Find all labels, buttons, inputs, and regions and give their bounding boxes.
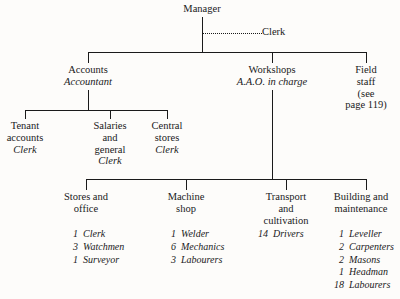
edge-drop-salaries bbox=[110, 110, 111, 119]
node-tenant-accounts: Tenant accounts Clerk bbox=[0, 120, 55, 155]
node-field-staff-title: Field staff (see page 119) bbox=[334, 64, 398, 111]
staff-row: 1 Clerk bbox=[62, 228, 124, 241]
staff-row: 1 Welder bbox=[160, 228, 224, 241]
org-chart: Manager Clerk Accounts Accountant Worksh… bbox=[0, 0, 400, 299]
node-accounts-role: Accountant bbox=[48, 76, 128, 88]
staff-job: Labourers bbox=[181, 254, 222, 267]
staff-count: 1 bbox=[62, 254, 83, 267]
staff-job: Leveller bbox=[349, 228, 382, 241]
edge-drop-machine-shop bbox=[186, 179, 187, 190]
staff-list-machine-shop: 1 Welder 6 Mechanics 3 Labourers bbox=[160, 228, 224, 266]
staff-row: 2 Carpenters bbox=[328, 241, 394, 254]
staff-row: 2 Masons bbox=[328, 254, 394, 267]
staff-job: Welder bbox=[181, 228, 209, 241]
staff-row: 14 Drivers bbox=[252, 228, 304, 241]
node-transport-title: Transport and cultivation bbox=[246, 191, 326, 226]
staff-list-building: 1 Leveller 2 Carpenters 2 Masons 1 Headm… bbox=[328, 228, 394, 292]
node-manager: Manager bbox=[162, 3, 242, 15]
staff-count: 2 bbox=[328, 241, 349, 254]
edge-drop-transport bbox=[286, 179, 287, 190]
edge-manager-clerk-dotted bbox=[203, 33, 262, 34]
node-workshops-role: A.A.O. in charge bbox=[222, 76, 322, 88]
staff-count: 3 bbox=[160, 254, 181, 267]
node-tenant-accounts-title: Tenant accounts bbox=[0, 120, 55, 144]
edge-drop-accounts bbox=[88, 52, 89, 63]
staff-count: 6 bbox=[160, 241, 181, 254]
staff-count: 1 bbox=[328, 228, 349, 241]
node-clerk: Clerk bbox=[262, 26, 308, 38]
node-salaries-role: Clerk bbox=[80, 155, 140, 167]
staff-count: 18 bbox=[328, 279, 349, 292]
node-tenant-accounts-role: Clerk bbox=[0, 144, 55, 156]
staff-job: Surveyor bbox=[83, 254, 119, 267]
node-salaries: Salaries and general Clerk bbox=[80, 120, 140, 167]
staff-job: Drivers bbox=[273, 228, 304, 241]
edge-workshops-stem bbox=[272, 90, 273, 179]
node-stores-office-title: Stores and office bbox=[44, 191, 128, 215]
bus-workshops-children bbox=[86, 179, 366, 180]
staff-row: 18 Labourers bbox=[328, 279, 394, 292]
node-machine-shop-title: Machine shop bbox=[146, 191, 226, 215]
edge-drop-building bbox=[366, 179, 367, 190]
node-accounts: Accounts Accountant bbox=[48, 64, 128, 88]
edge-drop-central-stores bbox=[167, 110, 168, 119]
staff-count: 3 bbox=[62, 241, 83, 254]
staff-row: 3 Watchmen bbox=[62, 241, 124, 254]
staff-row: 6 Mechanics bbox=[160, 241, 224, 254]
edge-drop-tenant-accounts bbox=[25, 110, 26, 119]
staff-job: Clerk bbox=[83, 228, 105, 241]
node-stores-office: Stores and office bbox=[44, 191, 128, 215]
node-field-staff: Field staff (see page 119) bbox=[334, 64, 398, 111]
node-accounts-title: Accounts bbox=[48, 64, 128, 76]
node-clerk-title: Clerk bbox=[262, 26, 308, 38]
staff-job: Headman bbox=[349, 266, 388, 279]
staff-list-stores-office: 1 Clerk 3 Watchmen 1 Surveyor bbox=[62, 228, 124, 266]
node-salaries-title: Salaries and general bbox=[80, 120, 140, 155]
edge-drop-workshops bbox=[272, 52, 273, 63]
staff-count: 2 bbox=[328, 254, 349, 267]
staff-row: 1 Surveyor bbox=[62, 254, 124, 267]
bus-accounts-children bbox=[25, 110, 167, 111]
staff-job: Mechanics bbox=[181, 241, 224, 254]
node-central-stores-title: Central stores bbox=[137, 120, 197, 144]
staff-row: 1 Headman bbox=[328, 266, 394, 279]
staff-row: 3 Labourers bbox=[160, 254, 224, 267]
node-building: Building and maintenance bbox=[322, 191, 400, 215]
node-workshops-title: Workshops bbox=[222, 64, 322, 76]
staff-job: Watchmen bbox=[83, 241, 124, 254]
staff-count: 14 bbox=[252, 228, 273, 241]
staff-row: 1 Leveller bbox=[328, 228, 394, 241]
staff-count: 1 bbox=[62, 228, 83, 241]
node-central-stores-role: Clerk bbox=[137, 144, 197, 156]
edge-manager-stem bbox=[202, 17, 203, 52]
staff-count: 1 bbox=[328, 266, 349, 279]
bus-level2 bbox=[88, 52, 366, 53]
node-manager-title: Manager bbox=[162, 3, 242, 15]
staff-count: 1 bbox=[160, 228, 181, 241]
node-machine-shop: Machine shop bbox=[146, 191, 226, 215]
edge-accounts-stem bbox=[88, 90, 89, 110]
staff-list-transport: 14 Drivers bbox=[252, 228, 304, 241]
node-building-title: Building and maintenance bbox=[322, 191, 400, 215]
node-workshops: Workshops A.A.O. in charge bbox=[222, 64, 322, 88]
edge-drop-stores-office bbox=[86, 179, 87, 190]
edge-drop-field-staff bbox=[366, 52, 367, 63]
node-transport: Transport and cultivation bbox=[246, 191, 326, 226]
staff-job: Masons bbox=[349, 254, 380, 267]
staff-job: Carpenters bbox=[349, 241, 394, 254]
staff-job: Labourers bbox=[349, 279, 390, 292]
node-central-stores: Central stores Clerk bbox=[137, 120, 197, 155]
